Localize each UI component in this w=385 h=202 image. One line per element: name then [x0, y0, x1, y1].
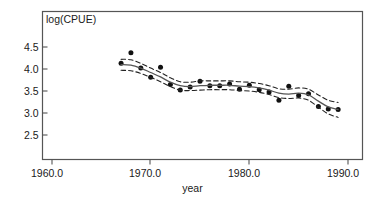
y-tick-label-3-0: 3.0 — [24, 107, 39, 119]
x-tick-label-1960: 1960.0 — [31, 167, 63, 179]
x-tick-label-1970: 1970.0 — [129, 167, 161, 179]
data-point — [128, 50, 133, 55]
y-tick-label-3-5: 3.5 — [24, 85, 39, 97]
x-axis-ticks — [52, 160, 348, 165]
data-point — [276, 98, 281, 103]
confidence-band-line — [121, 59, 338, 102]
x-axis-label: year — [0, 182, 385, 194]
x-tick-label-1980: 1980.0 — [228, 167, 260, 179]
trend-line — [121, 65, 338, 110]
y-tick-label-4-0: 4.0 — [24, 63, 39, 75]
y-tick-label-4-5: 4.5 — [24, 41, 39, 53]
y-axis-ticks — [43, 47, 48, 135]
chart-data-layer — [119, 50, 341, 117]
data-point — [158, 65, 163, 70]
y-axis-label: log(CPUE) — [46, 13, 96, 25]
data-point — [286, 84, 291, 89]
chart-figure: log(CPUE) 4.5 4.0 3.5 3.0 2.5 1960.0 197… — [0, 0, 385, 202]
x-tick-label-1990: 1990.0 — [327, 167, 359, 179]
y-tick-label-2-5: 2.5 — [24, 129, 39, 141]
